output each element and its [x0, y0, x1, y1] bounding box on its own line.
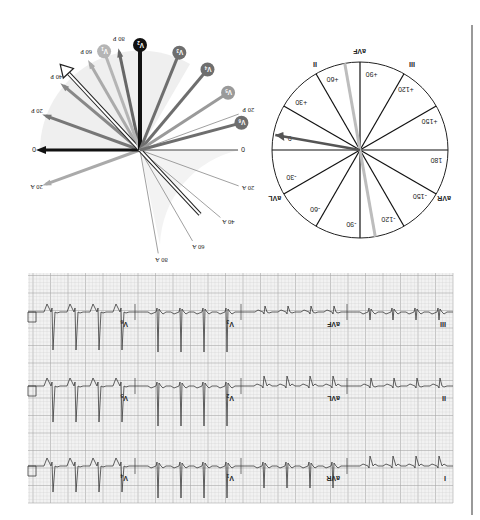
axis-zero-label: 0: [241, 146, 245, 153]
ecg-lead-label-avf: aVF: [326, 321, 340, 328]
precordial-vector-diagram: 0020 A40 A60 A80 A20 P20 P40 P60 P80 P20…: [30, 36, 254, 264]
hexaxial-lead-label-ii: II: [313, 61, 317, 68]
vector-ray-label: 20 A: [30, 184, 43, 191]
hexaxial-degree-label: +150: [422, 118, 438, 125]
hexaxial-degree-label: +90: [366, 71, 378, 78]
reference-ray-label: 20 P: [242, 107, 254, 114]
axis-zero-label: 0: [32, 146, 36, 153]
figure-stage: IaVRV1V4IIaVLV2V5IIIaVFV3V6 0+30+60+90+1…: [0, 0, 480, 520]
ecg-lead-label-avr: aVR: [326, 475, 340, 482]
vector-ray-label: 20 P: [31, 108, 43, 115]
hexaxial-lead-label-avl: aVL: [268, 195, 282, 202]
ecg-lead-label-ii: II: [442, 395, 446, 402]
hexaxial-degree-label: +30: [295, 99, 307, 106]
reference-ray-label: 60 A: [192, 244, 205, 251]
hexaxial-degree-label: -60: [310, 206, 320, 213]
vector-ray: [46, 150, 140, 184]
hexaxial-degree-label: -30: [286, 174, 296, 181]
hexaxial-lead-label-avf: aVF: [352, 48, 366, 55]
reference-ray-label: 80 A: [155, 257, 168, 264]
vector-ray-label: 60 P: [80, 49, 92, 56]
hexaxial-degree-label: -150: [413, 193, 427, 200]
hexaxial-degree-label: +120: [398, 86, 414, 93]
figure-canvas: IaVRV1V4IIaVLV2V5IIIaVFV3V6 0+30+60+90+1…: [0, 0, 480, 520]
arrowhead-icon: [42, 180, 51, 186]
vector-ray-label: 80 P: [113, 36, 125, 43]
ecg-lead-label-i: I: [444, 475, 446, 482]
hexaxial-degree-label: 180: [430, 157, 442, 164]
hexaxial-degree-label: -120: [381, 216, 395, 223]
precordial-lead-vector: [140, 123, 241, 150]
ecg-lead-label-iii: III: [440, 321, 446, 328]
vector-ray-label: 40 P: [50, 74, 62, 81]
hexaxial-lead-label-iii: III: [409, 61, 415, 68]
hexaxial-lead-label-avr: aVR: [437, 195, 451, 202]
reference-ray-label: 20 A: [241, 185, 254, 192]
ecg-strip: IaVRV1V4IIaVLV2V5IIIaVFV3V6: [28, 273, 453, 503]
reference-ray-label: 40 A: [222, 219, 235, 226]
hexaxial-reference-diagram: 0+30+60+90+120+150180-30-60-90-120-150II…: [268, 48, 451, 238]
hexaxial-degree-label: -90: [346, 221, 356, 228]
hexaxial-degree-label: +60: [327, 76, 339, 83]
ecg-lead-label-avl: aVL: [326, 395, 340, 402]
